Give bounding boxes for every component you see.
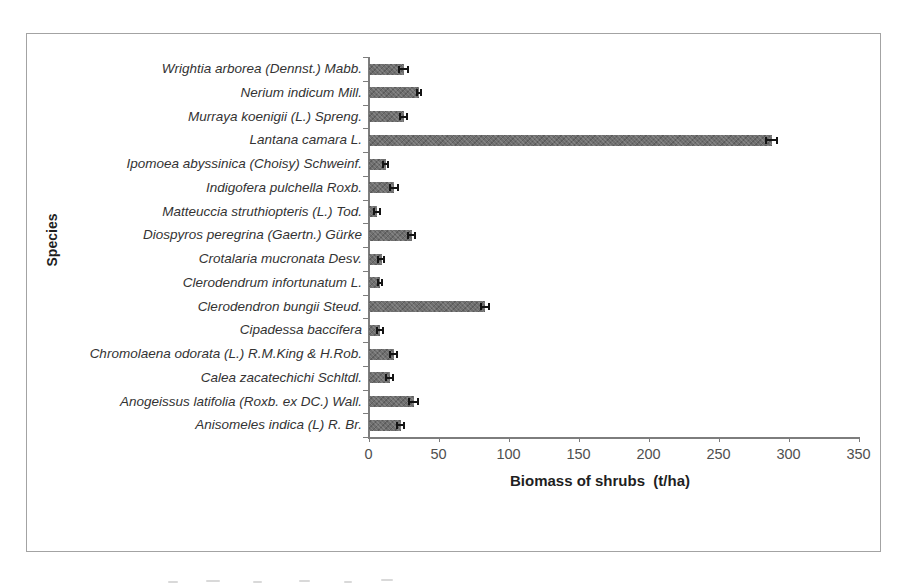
species-label: Wrightia arborea (Dennst.) Mabb. xyxy=(60,57,362,81)
biomass-bar xyxy=(369,87,419,98)
y-axis-tick xyxy=(363,105,369,106)
error-bar-cap-left xyxy=(377,279,379,286)
species-label: Ipomoea abyssinica (Choisy) Schweinf. xyxy=(60,152,362,176)
y-axis-tick xyxy=(363,57,369,58)
x-tick-label: 350 xyxy=(829,446,889,462)
scan-artifact xyxy=(168,581,178,583)
x-axis-tick xyxy=(579,437,580,442)
error-bar-cap-left xyxy=(765,137,767,144)
x-axis-tick xyxy=(509,437,510,442)
species-label: Lantana camara L. xyxy=(60,128,362,152)
error-bar-cap-left xyxy=(480,303,482,310)
error-bar-cap-right xyxy=(396,351,398,358)
error-bar-cap-right xyxy=(776,137,778,144)
error-bar-cap-right xyxy=(387,161,389,168)
x-tick-label: 300 xyxy=(759,446,819,462)
y-axis-tick xyxy=(363,295,369,296)
species-label: Murraya koenigii (L.) Spreng. xyxy=(60,105,362,129)
y-axis-tick xyxy=(363,390,369,391)
error-bar-cap-left xyxy=(416,89,418,96)
scanned-figure-page: 050100150200250300350Wrightia arborea (D… xyxy=(0,0,906,586)
scan-artifact xyxy=(381,579,393,581)
species-label: Anisomeles indica (L) R. Br. xyxy=(60,413,362,437)
x-axis-tick xyxy=(369,437,370,442)
species-label: Indigofera pulchella Roxb. xyxy=(60,176,362,200)
x-tick-label: 200 xyxy=(619,446,679,462)
error-bar-cap-left xyxy=(407,232,409,239)
error-bar-cap-left xyxy=(377,256,379,263)
biomass-bar xyxy=(369,135,772,146)
error-bar-cap-right xyxy=(414,232,416,239)
x-axis-tick xyxy=(789,437,790,442)
error-bar-cap-left xyxy=(408,398,410,405)
x-axis-tick xyxy=(859,437,860,442)
species-label: Diospyros peregrina (Gaertn.) Gürke xyxy=(60,223,362,247)
x-axis-tick xyxy=(719,437,720,442)
error-bar-cap-left xyxy=(376,327,378,334)
x-tick-label: 0 xyxy=(339,446,399,462)
error-bar-cap-right xyxy=(392,374,394,381)
y-axis-tick xyxy=(363,413,369,414)
y-axis-tick xyxy=(363,81,369,82)
y-axis-tick xyxy=(363,342,369,343)
y-axis-tick xyxy=(363,271,369,272)
x-axis-line xyxy=(368,437,859,439)
error-bar-cap-right xyxy=(397,184,399,191)
scan-artifact xyxy=(206,580,220,582)
error-bar-cap-left xyxy=(373,208,375,215)
error-bar-cap-left xyxy=(389,351,391,358)
species-label: Chromolaena odorata (L.) R.M.King & H.Ro… xyxy=(60,342,362,366)
error-bar-cap-left xyxy=(396,422,398,429)
biomass-bar xyxy=(369,396,414,407)
x-tick-label: 250 xyxy=(689,446,749,462)
y-axis-tick xyxy=(363,247,369,248)
error-bar-cap-right xyxy=(406,113,408,120)
error-bar-cap-right xyxy=(383,256,385,263)
species-label: Clerodendron bungii Steud. xyxy=(60,295,362,319)
y-axis-tick xyxy=(363,318,369,319)
biomass-bar xyxy=(369,230,412,241)
x-tick-label: 150 xyxy=(549,446,609,462)
y-axis-tick xyxy=(363,152,369,153)
scan-artifact xyxy=(344,581,352,583)
error-bar-cap-right xyxy=(488,303,490,310)
error-bar-cap-left xyxy=(398,66,400,73)
y-axis-tick xyxy=(363,176,369,177)
species-label: Calea zacatechichi Schltdl. xyxy=(60,366,362,390)
biomass-bar xyxy=(369,301,485,312)
x-tick-label: 50 xyxy=(409,446,469,462)
y-axis-title: Species xyxy=(44,205,60,275)
y-axis-tick xyxy=(363,223,369,224)
species-label: Crotalaria mucronata Desv. xyxy=(60,247,362,271)
error-bar-cap-left xyxy=(385,374,387,381)
species-label: Clerodendrum infortunatum L. xyxy=(60,271,362,295)
species-label: Nerium indicum Mill. xyxy=(60,81,362,105)
scan-artifact xyxy=(299,580,310,582)
error-bar-cap-right xyxy=(417,398,419,405)
error-bar-cap-left xyxy=(399,113,401,120)
species-label: Cipadessa baccifera xyxy=(60,318,362,342)
y-axis-tick xyxy=(363,200,369,201)
error-bar-cap-right xyxy=(420,89,422,96)
scan-artifact xyxy=(253,581,262,583)
error-bar-cap-right xyxy=(381,279,383,286)
error-bar-cap-right xyxy=(403,422,405,429)
species-label: Matteuccia struthiopteris (L.) Tod. xyxy=(60,200,362,224)
error-bar-cap-right xyxy=(382,327,384,334)
error-bar-cap-left xyxy=(389,184,391,191)
x-axis-tick xyxy=(649,437,650,442)
y-axis-tick xyxy=(363,128,369,129)
x-axis-title: Biomass of shrubs (t/ha) xyxy=(450,472,750,489)
species-label: Anogeissus latifolia (Roxb. ex DC.) Wall… xyxy=(60,390,362,414)
x-tick-label: 100 xyxy=(479,446,539,462)
error-bar-cap-left xyxy=(382,161,384,168)
error-bar-cap-right xyxy=(379,208,381,215)
y-axis-tick xyxy=(363,366,369,367)
x-axis-tick xyxy=(439,437,440,442)
error-bar-cap-right xyxy=(407,66,409,73)
